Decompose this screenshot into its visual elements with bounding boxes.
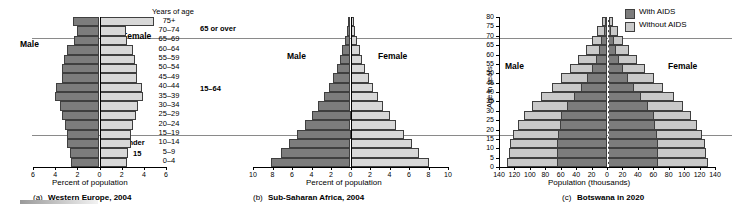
- bar-male: [324, 92, 350, 101]
- bar-male: [67, 139, 99, 148]
- bar-male: [70, 148, 100, 157]
- panel-b-x-tick-label: 10: [440, 171, 456, 178]
- panel-b-x-tick-label: 8: [265, 171, 281, 178]
- panel-b-x-tick: [370, 167, 371, 170]
- bar-female-with-aids: [608, 101, 648, 110]
- bar-male: [71, 158, 100, 167]
- panel-b-x-tick-label: 6: [284, 171, 300, 178]
- panel-c-x-tick: [638, 167, 639, 170]
- panel-b-x-tick-label: 6: [401, 171, 417, 178]
- bar-female-with-aids: [608, 64, 623, 73]
- panel-a-x-tick-label: 2: [114, 171, 130, 178]
- bar-male-with-aids: [592, 64, 607, 73]
- panel-c-x-tick: [576, 167, 577, 170]
- panel-b-caption: Sub-Saharan Africa, 2004: [268, 194, 364, 202]
- bar-female-with-aids: [608, 92, 642, 101]
- bar-female-with-aids: [608, 139, 659, 148]
- panel-c-plot: [480, 17, 720, 167]
- bar-female: [351, 120, 397, 129]
- bar-male-with-aids: [557, 148, 608, 157]
- panel-c-x-tick: [561, 167, 562, 170]
- bar-male-with-aids: [587, 73, 607, 82]
- legend-swatch: [625, 22, 635, 32]
- population-pyramids-figure: Male Female Years of age 65 or over 15–6…: [0, 0, 735, 209]
- bar-female-with-aids: [608, 73, 628, 82]
- bar-male: [67, 45, 99, 54]
- bar-female: [351, 158, 430, 167]
- bar-male-with-aids: [557, 139, 608, 148]
- bar-female-with-aids: [608, 148, 659, 157]
- bar-female: [100, 120, 133, 129]
- panel-b-x-tick-label: 8: [421, 171, 437, 178]
- bar-female: [351, 101, 383, 110]
- panel-a-x-tick-label: 6: [158, 171, 174, 178]
- bar-female: [351, 130, 405, 139]
- bar-male-with-aids: [574, 92, 608, 101]
- bar-male: [67, 130, 99, 139]
- bar-male: [342, 45, 350, 54]
- bar-male-with-aids: [599, 45, 607, 54]
- panel-c-x-tick: [607, 167, 608, 170]
- center-axis: [100, 17, 101, 167]
- decorative-gradient-bar: [20, 200, 98, 204]
- panel-c-x-tick-label: 140: [706, 171, 724, 178]
- bar-female: [351, 148, 419, 157]
- panel-c-x-tick: [499, 167, 500, 170]
- panel-c-x-tick: [700, 167, 701, 170]
- panel-c-x-tick: [514, 167, 515, 170]
- bar-male: [305, 120, 351, 129]
- bar-female: [351, 111, 390, 120]
- panel-a-plot: [0, 17, 200, 167]
- bar-female: [351, 139, 412, 148]
- bar-female: [100, 158, 128, 167]
- bar-female: [351, 73, 370, 82]
- panel-b-caption-prefix: (b): [253, 194, 263, 202]
- bar-male-with-aids: [567, 101, 607, 110]
- panel-a-x-tick: [55, 167, 56, 170]
- bar-female: [351, 92, 378, 101]
- bar-female-with-aids: [608, 111, 654, 120]
- bar-female: [100, 45, 133, 54]
- bar-male: [74, 36, 99, 45]
- panel-c-x-axis-title: Population (thousands): [548, 179, 630, 187]
- panel-b-x-tick: [253, 167, 254, 170]
- panel-b-x-tick-label: 0: [343, 171, 359, 178]
- bar-female: [100, 36, 128, 45]
- panel-a-x-tick-label: 4: [47, 171, 63, 178]
- panel-b-x-tick: [448, 167, 449, 170]
- panel-b-x-tick: [292, 167, 293, 170]
- legend-swatch: [625, 9, 635, 19]
- bar-male-with-aids: [581, 83, 607, 92]
- bar-female: [100, 130, 131, 139]
- bar-female: [351, 36, 358, 45]
- bar-male: [281, 148, 350, 157]
- panel-a-x-tick-label: 4: [136, 171, 152, 178]
- bar-female: [100, 92, 143, 101]
- panel-b-x-tick: [331, 167, 332, 170]
- panel-b-x-axis-title: Percent of population: [306, 179, 382, 187]
- panel-b-x-tick: [429, 167, 430, 170]
- bar-male: [55, 92, 99, 101]
- bar-female: [351, 83, 373, 92]
- bar-male: [62, 111, 100, 120]
- bar-male: [271, 158, 351, 167]
- bar-male: [60, 101, 100, 110]
- bar-female: [100, 64, 138, 73]
- panel-a-x-tick: [166, 167, 167, 170]
- panel-western-europe: Male Female Years of age 65 or over 15–6…: [0, 0, 245, 209]
- bar-male: [337, 64, 351, 73]
- bar-male: [64, 55, 99, 64]
- legend-label: Without AIDS: [639, 21, 687, 29]
- panel-c-x-tick: [592, 167, 593, 170]
- bar-male: [289, 139, 350, 148]
- legend-label: With AIDS: [639, 8, 675, 16]
- panel-sub-saharan-africa: Male Female 1086420246810 Percent of pop…: [245, 0, 480, 209]
- panel-c-x-tick: [530, 167, 531, 170]
- panel-c-caption: Botswana in 2020: [577, 194, 644, 202]
- bar-female: [351, 45, 360, 54]
- bar-female: [100, 83, 142, 92]
- panel-c-x-tick: [653, 167, 654, 170]
- panel-c-x-tick: [669, 167, 670, 170]
- panel-b-x-tick-label: 2: [323, 171, 339, 178]
- panel-b-x-tick: [390, 167, 391, 170]
